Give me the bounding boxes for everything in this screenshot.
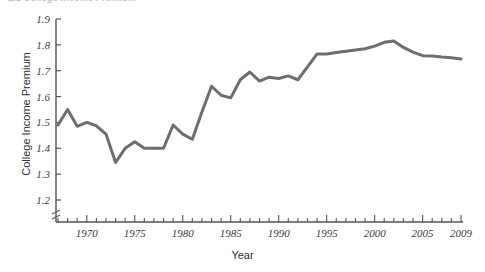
y-tick-label: 1.9: [36, 13, 50, 25]
y-tick-label: 1.8: [36, 39, 50, 51]
y-tick-label: 1.2: [36, 194, 50, 206]
series-line: [58, 41, 461, 163]
y-tick-label: 1.5: [36, 116, 50, 128]
x-tick-label: 1990: [268, 227, 291, 239]
x-tick-label: 1985: [220, 227, 243, 239]
x-tick-label: 2005: [412, 227, 435, 239]
line-chart-plot: 1.21.31.41.51.61.71.81.9 197019751980198…: [0, 0, 485, 272]
data-series-college-income-premium: [58, 41, 461, 163]
y-tick-label: 1.6: [36, 91, 50, 103]
y-tick-label: 1.3: [36, 168, 50, 180]
chart-figure: 1.1 College Income Premium College Incom…: [0, 0, 485, 272]
x-tick-label: 1980: [172, 227, 195, 239]
x-tick-label: 2000: [364, 227, 387, 239]
y-tick-label: 1.7: [36, 65, 50, 77]
y-tick-label: 1.4: [36, 142, 50, 154]
x-tick-label: 2009: [450, 227, 473, 239]
x-tick-label: 1975: [124, 227, 147, 239]
y-axis: 1.21.31.41.51.61.71.81.9: [36, 13, 61, 222]
x-tick-label: 1970: [76, 227, 99, 239]
x-axis: 197019751980198519901995200020052009: [56, 215, 473, 239]
x-tick-label: 1995: [316, 227, 339, 239]
